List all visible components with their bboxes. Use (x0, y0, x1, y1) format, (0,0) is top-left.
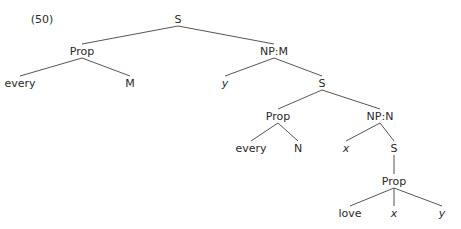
tree-edge (82, 26, 178, 44)
tree-node-s2: S (319, 77, 326, 90)
tree-edge (346, 123, 380, 141)
tree-edge (178, 26, 274, 44)
tree-edge (274, 58, 322, 76)
tree-node-love: love (338, 207, 361, 220)
tree-node-npn: NP:N (367, 110, 394, 123)
tree-edge (82, 58, 130, 76)
tree-edge (20, 58, 82, 76)
tree-edge (380, 123, 394, 141)
tree-edge (278, 90, 322, 109)
tree-node-every1: every (4, 77, 35, 90)
tree-node-npm: NP:M (260, 45, 288, 58)
tree-node-m1: M (125, 77, 135, 90)
tree-edge (278, 123, 298, 141)
tree-node-y1: y (222, 77, 229, 90)
tree-edge (350, 188, 394, 206)
tree-node-every2: every (235, 142, 266, 155)
tree-edge (322, 90, 380, 109)
tree-edge (225, 58, 274, 76)
tree-node-s3: S (391, 142, 398, 155)
tree-node-prop1: Prop (70, 45, 94, 58)
tree-node-x2: x (391, 207, 398, 220)
tree-node-s1: S (175, 13, 182, 26)
tree-node-x1: x (343, 142, 350, 155)
tree-edge (394, 188, 442, 206)
tree-node-y2: y (439, 207, 446, 220)
tree-node-prop2: Prop (266, 110, 290, 123)
tree-edge (251, 123, 278, 141)
tree-node-prop3: Prop (382, 175, 406, 188)
tree-node-n1: N (294, 142, 302, 155)
